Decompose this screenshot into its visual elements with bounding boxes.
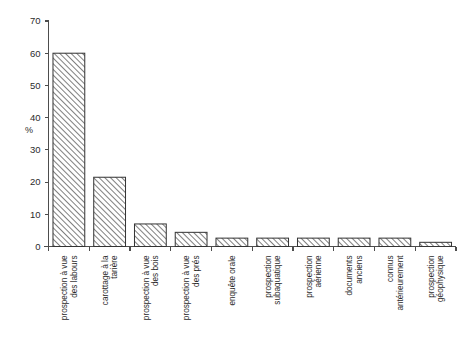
category-label-line: enquête orale	[228, 255, 237, 306]
category-label: carottage à latarière	[101, 255, 120, 305]
category-label: prospectionaérienne	[305, 255, 324, 298]
category-label-line: des labours	[70, 256, 79, 298]
bar	[134, 224, 166, 247]
y-axis-title: %	[25, 125, 33, 135]
category-label: prospection à vuedes labours	[60, 255, 79, 320]
category-label-line: tarière	[110, 255, 119, 279]
category-label-line: documents	[345, 256, 354, 296]
category-label: prospection à vuedes prés	[182, 255, 201, 320]
category-label-line: subaquatique	[273, 255, 282, 305]
bar	[175, 232, 207, 246]
bar	[257, 238, 289, 246]
category-label-line: prospection à vue	[182, 255, 191, 320]
category-label-line: prospection	[427, 255, 436, 298]
y-tick-label: 60	[30, 48, 41, 59]
category-label-line: prospection	[264, 255, 273, 298]
category-label-line: carottage à la	[101, 255, 110, 305]
bar-series	[53, 53, 452, 246]
y-axis: 010203040506070 %	[25, 15, 49, 252]
category-label-line: aérienne	[314, 255, 323, 287]
category-label-line: géophysique	[436, 255, 445, 302]
y-tick-label: 30	[30, 144, 41, 155]
category-label-line: prospection à vue	[142, 255, 151, 320]
category-label: prospection à vuedes bois	[142, 255, 161, 320]
bar-chart: 010203040506070 % prospection à vuedes l…	[0, 0, 471, 341]
bar	[420, 242, 452, 246]
y-tick-label: 70	[30, 15, 41, 26]
category-label-line: des bois	[151, 256, 160, 287]
y-tick-label: 40	[30, 112, 41, 123]
x-axis	[44, 247, 456, 251]
bar	[216, 238, 248, 246]
category-label-line: prospection	[305, 255, 314, 298]
y-tick-label: 0	[35, 241, 40, 252]
category-label-line: antérieurement	[396, 255, 405, 311]
bar	[379, 238, 411, 246]
category-label-line: prospection à vue	[60, 255, 69, 320]
bar	[338, 238, 370, 246]
category-label: documentsanciens	[345, 256, 364, 296]
bar	[94, 177, 126, 246]
bar	[297, 238, 329, 246]
chart-canvas: 010203040506070 % prospection à vuedes l…	[0, 0, 471, 341]
y-tick-label: 20	[30, 176, 41, 187]
x-tick-group	[49, 247, 457, 251]
category-label-line: des prés	[192, 256, 201, 287]
category-label: connusantérieurement	[386, 255, 405, 311]
category-label-line: anciens	[355, 256, 364, 284]
category-label-line: connus	[386, 256, 395, 282]
category-label-group: prospection à vuedes labourscarottage à …	[60, 255, 445, 320]
category-label: prospectiongéophysique	[427, 255, 446, 302]
bar	[53, 53, 85, 246]
category-label: enquête orale	[228, 255, 237, 306]
y-tick-label: 50	[30, 80, 41, 91]
category-label: prospectionsubaquatique	[264, 255, 283, 305]
y-tick-label: 10	[30, 209, 41, 220]
